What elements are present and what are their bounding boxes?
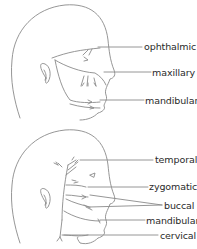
head-profile-trigeminal-illustration xyxy=(0,0,197,125)
label-mandibular-trigeminal: mandibular xyxy=(145,96,197,106)
label-cervical: cervical xyxy=(160,231,196,241)
label-ophthalmic: ophthalmic xyxy=(144,42,196,52)
facial-nerve-diagram: temporal zygomatic buccal mandibular cer… xyxy=(0,125,197,249)
label-temporal: temporal xyxy=(155,155,197,165)
label-mandibular-facial: mandibular xyxy=(146,216,197,226)
trigeminal-nerve-diagram: ophthalmic maxillary mandibular xyxy=(0,0,197,125)
label-buccal: buccal xyxy=(164,201,194,211)
label-maxillary: maxillary xyxy=(152,68,195,78)
label-zygomatic: zygomatic xyxy=(149,182,197,192)
